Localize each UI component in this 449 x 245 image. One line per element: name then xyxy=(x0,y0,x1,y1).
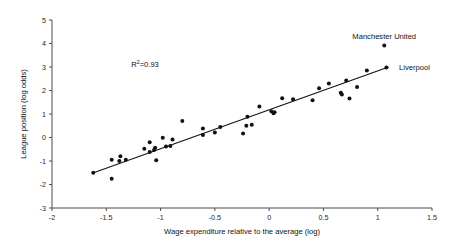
data-point xyxy=(201,133,205,137)
x-axis-tick-label: 1.5 xyxy=(427,213,437,222)
data-point xyxy=(154,158,158,162)
data-point xyxy=(148,140,152,144)
y-axis-title: League position (log odds) xyxy=(19,69,28,159)
data-point xyxy=(110,177,114,181)
data-point xyxy=(148,150,152,154)
x-axis-tick-label: 0 xyxy=(267,213,271,222)
data-point xyxy=(180,119,184,123)
data-point xyxy=(241,132,245,136)
y-axis-tick-label: 4 xyxy=(42,39,46,48)
point-label-liverpool: Liverpool xyxy=(399,63,430,72)
y-axis-tick-label: 0 xyxy=(42,133,46,142)
data-point xyxy=(250,123,254,127)
data-point xyxy=(142,147,146,151)
data-point xyxy=(118,154,122,158)
y-axis-tick-label: -2 xyxy=(40,180,46,189)
data-point xyxy=(218,125,222,129)
data-point xyxy=(164,144,168,148)
data-point xyxy=(311,98,315,102)
data-point xyxy=(365,69,369,73)
data-point xyxy=(161,136,165,140)
data-point xyxy=(245,115,249,119)
data-point xyxy=(117,159,121,163)
data-point xyxy=(171,137,175,141)
x-axis-title: Wage expenditure relative to the average… xyxy=(164,227,320,236)
x-axis-tick-label: -0.5 xyxy=(209,213,221,222)
data-point xyxy=(344,78,348,82)
y-axis-tick-label: 5 xyxy=(42,16,46,25)
x-axis-tick-label: 1 xyxy=(376,213,380,222)
y-axis-tick-label: 2 xyxy=(42,86,46,95)
y-axis-tick-label: 1 xyxy=(42,110,46,119)
x-axis-tick-label: 0.5 xyxy=(318,213,328,222)
data-point xyxy=(280,96,284,100)
data-point xyxy=(153,146,157,150)
data-point xyxy=(124,158,128,162)
data-point xyxy=(340,92,344,96)
regression-line xyxy=(92,67,388,173)
data-point xyxy=(244,124,248,128)
data-point xyxy=(317,86,321,90)
data-point xyxy=(355,85,359,89)
data-point xyxy=(110,158,114,162)
data-point xyxy=(291,97,295,101)
data-point xyxy=(347,96,351,100)
data-point xyxy=(168,144,172,148)
scatter-chart-figure: -3-2-1012345-2-1.5-1-0.500.511.5Wage exp… xyxy=(0,0,449,245)
x-axis-tick-label: -1 xyxy=(157,213,163,222)
point-label-manchester-united: Manchester United xyxy=(352,32,416,41)
x-axis-tick-label: -2 xyxy=(49,213,55,222)
y-axis-tick-label: -3 xyxy=(40,204,46,213)
r-squared-annotation: R2=0.93 xyxy=(131,59,159,69)
data-point xyxy=(327,81,331,85)
data-point xyxy=(382,43,386,47)
data-point xyxy=(91,171,95,175)
data-point xyxy=(201,127,205,131)
data-point xyxy=(273,110,277,114)
y-axis-tick-label: -1 xyxy=(40,157,46,166)
chart-canvas: -3-2-1012345-2-1.5-1-0.500.511.5Wage exp… xyxy=(0,0,449,245)
y-axis-tick-label: 3 xyxy=(42,63,46,72)
data-point xyxy=(257,104,261,108)
data-point xyxy=(213,131,217,135)
data-point xyxy=(384,65,388,69)
x-axis-tick-label: -1.5 xyxy=(100,213,112,222)
plot-area: -3-2-1012345-2-1.5-1-0.500.511.5Wage exp… xyxy=(19,16,437,236)
